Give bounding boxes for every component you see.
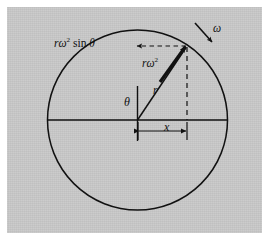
- label-radial-acceleration-component: rω2 sin θ: [54, 38, 95, 50]
- label-centripetal-acceleration: rω2: [142, 58, 158, 70]
- label-radius: r: [153, 85, 157, 97]
- label-angle-theta: θ: [124, 96, 130, 108]
- acceleration-vector-arrow: [160, 47, 186, 83]
- label-angular-velocity: ω: [213, 23, 221, 35]
- omega-rotation-arrow: [195, 23, 212, 42]
- label-horizontal-projection-x: x: [164, 121, 169, 133]
- figure-root: rω2 sin θ rω2 ω r θ x: [0, 0, 269, 245]
- circular-motion-diagram: [0, 0, 269, 245]
